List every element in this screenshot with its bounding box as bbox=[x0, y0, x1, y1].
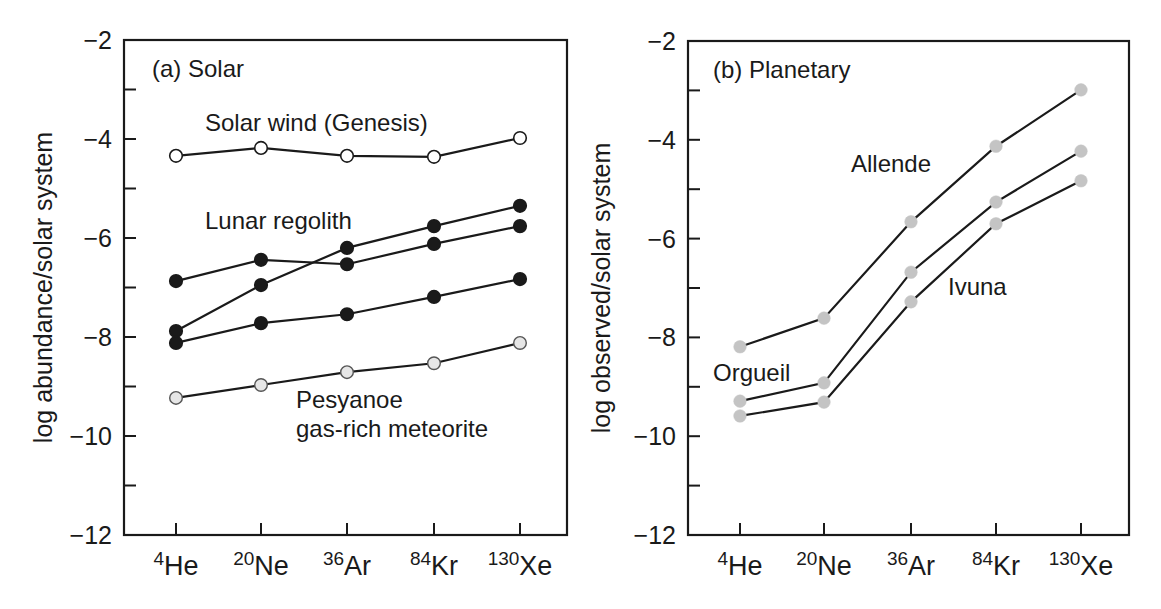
data-point-marker bbox=[170, 392, 183, 405]
x-tick-label: 20Ne bbox=[796, 548, 852, 581]
y-tick-label: −6 bbox=[83, 224, 112, 252]
y-tick-label: −2 bbox=[83, 26, 112, 54]
y-tick-label: −6 bbox=[647, 225, 676, 253]
x-tick-label: 36Ar bbox=[887, 548, 935, 581]
panel-title: (b) Planetary bbox=[713, 56, 850, 83]
data-point-marker bbox=[428, 291, 441, 304]
data-point-marker bbox=[428, 238, 441, 251]
data-point-marker bbox=[170, 325, 183, 338]
figure: −2−4−6−8−10−12log abundance/solar system… bbox=[0, 0, 1161, 609]
data-point-marker bbox=[341, 150, 354, 163]
series-label: Ivuna bbox=[948, 273, 1007, 300]
data-point-marker bbox=[341, 366, 354, 379]
data-point-marker bbox=[170, 337, 183, 350]
data-point-marker bbox=[255, 253, 268, 266]
data-point-marker bbox=[990, 196, 1003, 209]
data-point-marker bbox=[514, 220, 527, 233]
series-label: Lunar regolith bbox=[205, 207, 352, 234]
series-label: Orgueil bbox=[713, 359, 790, 386]
data-point-marker bbox=[905, 266, 918, 279]
data-point-marker bbox=[818, 377, 831, 390]
x-tick-label: 4He bbox=[153, 548, 198, 581]
y-tick-label: −4 bbox=[83, 125, 112, 153]
data-point-marker bbox=[905, 216, 918, 229]
series-group bbox=[170, 132, 527, 404]
panel-planetary: −2−4−6−8−10−12log observed/solar system4… bbox=[587, 27, 1129, 581]
data-point-marker bbox=[990, 140, 1003, 153]
y-tick-label: −4 bbox=[647, 126, 676, 154]
series-label: Allende bbox=[851, 150, 931, 177]
data-point-marker bbox=[514, 273, 527, 286]
y-tick-label: −12 bbox=[634, 521, 676, 549]
data-point-marker bbox=[514, 337, 527, 350]
y-tick-label: −8 bbox=[647, 323, 676, 351]
series-label: Solar wind (Genesis) bbox=[205, 109, 428, 136]
data-point-marker bbox=[990, 217, 1003, 230]
data-point-marker bbox=[170, 150, 183, 163]
data-point-marker bbox=[255, 142, 268, 155]
data-point-marker bbox=[818, 396, 831, 409]
data-point-marker bbox=[341, 258, 354, 271]
y-axis: −2−4−6−8−10−12 bbox=[634, 27, 700, 549]
data-point-marker bbox=[734, 395, 747, 408]
panel-solar: −2−4−6−8−10−12log abundance/solar system… bbox=[29, 26, 567, 581]
y-tick-label: −8 bbox=[83, 323, 112, 351]
data-point-marker bbox=[734, 410, 747, 423]
data-point-marker bbox=[255, 379, 268, 392]
data-point-marker bbox=[341, 242, 354, 255]
x-axis: 4He20Ne36Ar84Kr130Xe bbox=[153, 523, 552, 581]
x-tick-label: 130Xe bbox=[488, 548, 553, 581]
data-point-marker bbox=[1075, 84, 1088, 97]
series-label: gas-rich meteorite bbox=[296, 415, 488, 442]
y-tick-label: −10 bbox=[634, 422, 676, 450]
data-point-marker bbox=[428, 357, 441, 370]
x-tick-label: 20Ne bbox=[233, 548, 289, 581]
y-tick-label: −10 bbox=[70, 422, 112, 450]
y-tick-label: −12 bbox=[70, 521, 112, 549]
x-tick-label: 4He bbox=[717, 548, 762, 581]
x-axis: 4He20Ne36Ar84Kr130Xe bbox=[717, 523, 1113, 581]
data-point-marker bbox=[734, 340, 747, 353]
data-point-marker bbox=[428, 220, 441, 233]
data-point-marker bbox=[905, 296, 918, 309]
series-annotations: AllendeIvunaOrgueil bbox=[713, 150, 1007, 386]
data-point-marker bbox=[1075, 145, 1088, 158]
y-tick-label: −2 bbox=[647, 27, 676, 55]
series-label: Pesyanoe bbox=[296, 386, 403, 413]
data-point-marker bbox=[428, 151, 441, 164]
data-point-marker bbox=[341, 308, 354, 321]
y-axis: −2−4−6−8−10−12 bbox=[70, 26, 136, 549]
data-point-marker bbox=[514, 132, 527, 145]
panel-title: (a) Solar bbox=[152, 55, 244, 82]
plot-frame bbox=[688, 41, 1129, 535]
data-point-marker bbox=[818, 312, 831, 325]
data-point-marker bbox=[255, 279, 268, 292]
x-tick-label: 84Kr bbox=[972, 548, 1020, 581]
data-point-marker bbox=[1075, 175, 1088, 188]
y-axis-title: log abundance/solar system bbox=[29, 132, 57, 443]
data-point-marker bbox=[170, 275, 183, 288]
data-point-marker bbox=[514, 200, 527, 213]
x-tick-label: 84Kr bbox=[410, 548, 458, 581]
data-point-marker bbox=[255, 317, 268, 330]
y-axis-title: log observed/solar system bbox=[587, 143, 615, 433]
x-tick-label: 36Ar bbox=[323, 548, 371, 581]
x-tick-label: 130Xe bbox=[1049, 548, 1114, 581]
